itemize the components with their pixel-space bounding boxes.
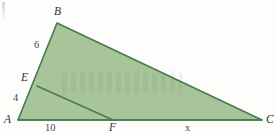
measure-label-ae: 4 — [13, 93, 18, 104]
measure-label-fc: x — [185, 123, 190, 134]
vertex-label-e: E — [21, 72, 28, 84]
measure-label-af: 10 — [45, 123, 56, 134]
vertex-label-c: C — [266, 114, 274, 126]
measure-label-eb: 6 — [34, 40, 39, 51]
vertex-label-f: F — [109, 122, 116, 134]
geometry-figure: B 6 E 4 A 10 F x C — [0, 0, 276, 135]
vertex-label-a: A — [4, 114, 11, 126]
vertex-label-b: B — [54, 6, 61, 18]
triangle-abc-shape — [18, 23, 262, 120]
triangle-diagram-svg — [0, 0, 276, 135]
triangle-abc-group — [18, 23, 262, 120]
